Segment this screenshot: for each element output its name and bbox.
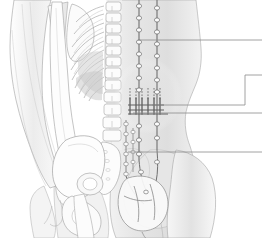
thigh-outline-right xyxy=(167,150,215,238)
urinary-bladder xyxy=(118,176,168,231)
diaphragm-shading xyxy=(76,71,102,100)
hand-outline xyxy=(30,186,56,238)
anatomy-illustration xyxy=(0,0,262,238)
anatomy-figure xyxy=(0,0,262,238)
femoral-head xyxy=(83,178,97,190)
